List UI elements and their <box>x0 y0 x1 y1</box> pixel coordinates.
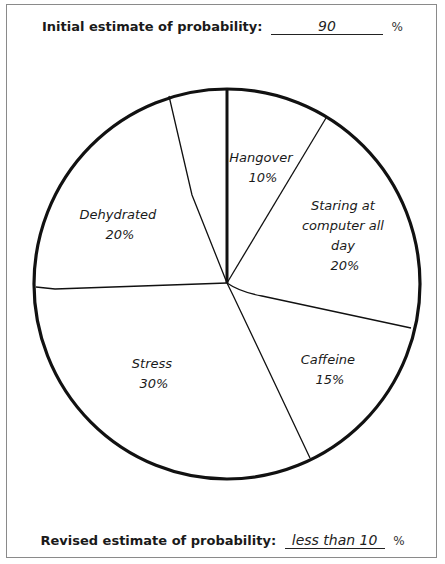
revised-estimate: Revised estimate of probability: less th… <box>0 532 445 549</box>
slice-dividers <box>36 96 411 458</box>
label-staring: Staring at computer all day 20% <box>302 198 388 273</box>
revised-estimate-label: Revised estimate of probability: <box>40 533 276 548</box>
label-dehydrated: Dehydrated 20% <box>80 207 161 242</box>
divider-staring-caffeine <box>227 283 411 328</box>
label-hangover: Hangover 10% <box>229 150 296 185</box>
divider-dehydrated-unlabeled <box>169 96 227 283</box>
label-stress: Stress 30% <box>132 356 176 391</box>
divider-caffeine-stress <box>227 283 310 458</box>
revised-estimate-unit: % <box>393 534 404 548</box>
label-caffeine: Caffeine 15% <box>301 352 359 387</box>
divider-stress-dehydrated <box>36 283 227 289</box>
revised-estimate-field[interactable]: less than 10 <box>285 532 385 549</box>
pie-chart: Hangover 10% Staring at computer all day… <box>0 0 445 564</box>
